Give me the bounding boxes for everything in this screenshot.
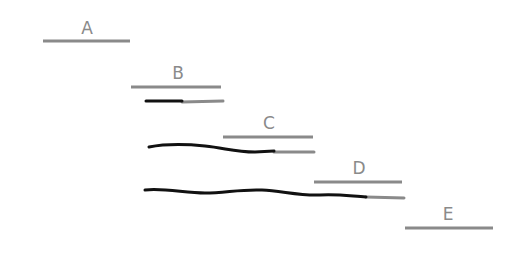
segment-label: C — [263, 113, 275, 133]
segment-b: B — [131, 63, 221, 87]
segment-c: C — [223, 113, 313, 137]
segment-d: D — [314, 158, 402, 182]
remaining-line — [182, 101, 223, 102]
segment-label: E — [443, 204, 454, 224]
labeled-segments: ABCDE — [43, 18, 493, 228]
sequence-diagram: ABCDE — [0, 0, 521, 255]
track-under-C — [149, 145, 314, 152]
segment-label: A — [81, 18, 93, 38]
segment-e: E — [405, 204, 493, 228]
completed-line — [149, 145, 274, 152]
segment-a: A — [43, 18, 130, 41]
track-under-B — [146, 101, 223, 102]
segment-label: B — [172, 63, 184, 83]
track-under-D — [145, 190, 404, 198]
completed-line — [145, 190, 366, 197]
remaining-line — [366, 197, 404, 198]
segment-label: D — [352, 158, 365, 178]
